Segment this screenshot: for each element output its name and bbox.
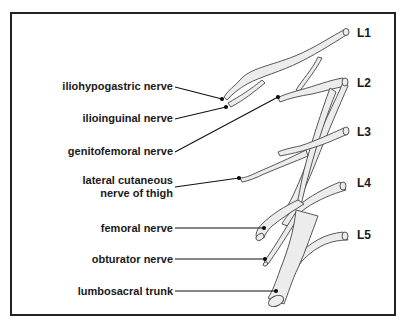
label-ilioinguinal-nerve: ilioinguinal nerve bbox=[83, 112, 173, 125]
leader-iliohypogastric bbox=[175, 87, 222, 99]
nerve-lateral-cutaneous bbox=[240, 150, 308, 182]
label-lateral-cutaneous-line1: lateral cutaneous bbox=[83, 174, 173, 187]
label-iliohypogastric-nerve: iliohypogastric nerve bbox=[62, 80, 173, 93]
label-lumbosacral-trunk: lumbosacral trunk bbox=[78, 285, 173, 298]
leader-lateral-cutaneous bbox=[175, 178, 239, 187]
lumbar-plexus-illustration bbox=[0, 0, 407, 334]
level-label-l3: L3 bbox=[357, 125, 371, 139]
level-label-l2: L2 bbox=[357, 76, 371, 90]
label-femoral-nerve: femoral nerve bbox=[101, 222, 173, 235]
label-obturator-nerve: obturator nerve bbox=[92, 253, 173, 266]
label-genitofemoral-nerve: genitofemoral nerve bbox=[68, 145, 173, 158]
level-label-l5: L5 bbox=[357, 228, 371, 242]
level-label-l4: L4 bbox=[357, 176, 371, 190]
leader-ilioinguinal bbox=[175, 107, 226, 119]
level-label-l1: L1 bbox=[357, 26, 371, 40]
label-lateral-cutaneous-line2: nerve of thigh bbox=[100, 187, 173, 200]
